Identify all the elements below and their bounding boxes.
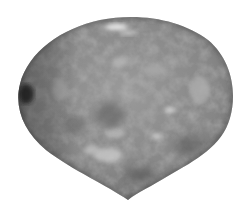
photo-scene — [0, 0, 250, 218]
stone-image — [0, 0, 250, 218]
stone-body — [0, 0, 250, 218]
